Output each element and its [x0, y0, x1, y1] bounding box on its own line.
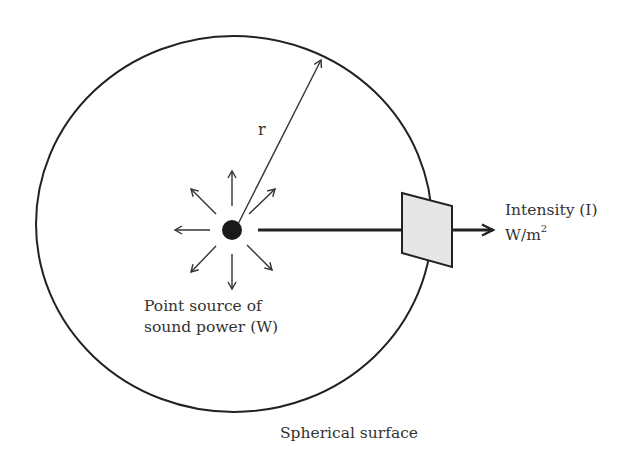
intensity-unit-exponent: 2: [541, 223, 547, 234]
point-source-dot: [222, 220, 242, 240]
intensity-label: Intensity (I): [505, 200, 598, 220]
radius-label: r: [258, 120, 266, 140]
intensity-unit: W/m2: [505, 221, 547, 245]
source-label-line2: sound power (W): [144, 317, 278, 337]
sound-intensity-diagram: r Point source of sound power (W) Intens…: [0, 0, 640, 462]
surface-label: Spherical surface: [280, 423, 418, 443]
intensity-unit-base: W/m: [505, 226, 541, 244]
source-label-line1: Point source of: [144, 296, 262, 316]
radius-arrow: [236, 60, 321, 228]
area-patch: [402, 193, 452, 267]
